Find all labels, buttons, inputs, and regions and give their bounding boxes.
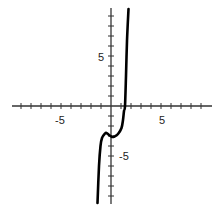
axes [12, 8, 212, 204]
function-plot: -5 5 5 -5 [0, 0, 219, 211]
x-tick-label-5: 5 [159, 114, 165, 126]
y-tick-label-5: 5 [98, 51, 104, 63]
y-tick-label-neg5: -5 [119, 150, 129, 162]
x-tick-label-neg5: -5 [55, 114, 65, 126]
